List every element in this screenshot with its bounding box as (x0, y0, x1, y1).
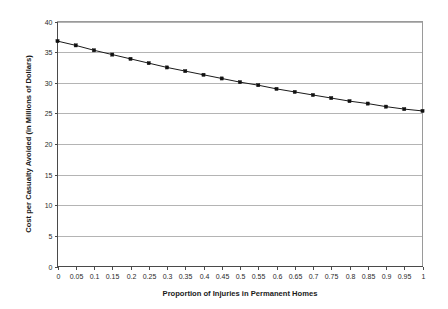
y-tick-label-20: 20 (45, 141, 53, 148)
data-point-0.05 (74, 44, 77, 47)
x-tick-label-1: 1 (422, 273, 426, 280)
data-point-0.2 (129, 57, 132, 60)
x-tick-label-0.25: 0.25 (143, 273, 157, 280)
data-point-0.1 (92, 49, 95, 52)
y-tick-label-30: 30 (45, 80, 53, 87)
y-tick-label-15: 15 (45, 172, 53, 179)
x-tick-label-0.35: 0.35 (179, 273, 193, 280)
x-tick-label-0: 0 (57, 273, 61, 280)
x-tick-label-0.85: 0.85 (362, 273, 376, 280)
series-markers (56, 40, 424, 113)
data-point-0.7 (311, 93, 314, 96)
y-tick-label-0: 0 (49, 264, 53, 271)
x-tick-label-0.3: 0.3 (163, 273, 173, 280)
chart-container: 0510152025303540 00.050.10.150.20.250.30… (0, 0, 448, 309)
data-point-0.4 (202, 73, 205, 76)
line-chart: 0510152025303540 00.050.10.150.20.250.30… (0, 0, 448, 309)
y-tick-label-10: 10 (45, 202, 53, 209)
series-line-cost-per-casualty (58, 41, 423, 111)
data-point-0.5 (238, 81, 241, 84)
data-point-0.25 (147, 62, 150, 65)
data-point-0.8 (348, 100, 351, 103)
y-axis-tick-labels: 0510152025303540 (45, 19, 53, 271)
x-tick-label-0.55: 0.55 (252, 273, 266, 280)
x-tick-label-0.7: 0.7 (309, 273, 319, 280)
x-tick-label-0.75: 0.75 (325, 273, 339, 280)
x-tick-label-0.9: 0.9 (382, 273, 392, 280)
x-tick-label-0.8: 0.8 (346, 273, 356, 280)
y-tick-label-40: 40 (45, 19, 53, 26)
y-tick-label-35: 35 (45, 49, 53, 56)
y-axis-title: Cost per Casualty Avoided (in Millions o… (24, 55, 33, 233)
data-point-0.15 (111, 53, 114, 56)
data-point-0.95 (403, 107, 406, 110)
data-point-0.45 (220, 77, 223, 80)
x-tick-label-0.2: 0.2 (127, 273, 137, 280)
x-axis-title: Proportion of Injuries in Permanent Home… (163, 289, 318, 298)
data-point-0.65 (293, 90, 296, 93)
x-tick-label-0.65: 0.65 (289, 273, 303, 280)
x-tick-label-0.5: 0.5 (236, 273, 246, 280)
data-point-0.9 (384, 105, 387, 108)
data-point-0.85 (366, 102, 369, 105)
x-tick-label-0.05: 0.05 (70, 273, 84, 280)
data-point-0 (56, 40, 59, 43)
x-tick-label-0.6: 0.6 (273, 273, 283, 280)
x-tick-label-0.4: 0.4 (200, 273, 210, 280)
y-tick-label-25: 25 (45, 110, 53, 117)
data-point-0.35 (184, 70, 187, 73)
data-point-0.6 (275, 87, 278, 90)
data-point-1 (421, 109, 424, 112)
x-axis-tick-labels: 00.050.10.150.20.250.30.350.40.450.50.55… (57, 273, 426, 280)
data-point-0.3 (165, 66, 168, 69)
x-tick-label-0.15: 0.15 (106, 273, 120, 280)
data-point-0.75 (330, 96, 333, 99)
x-tick-label-0.1: 0.1 (90, 273, 100, 280)
data-point-0.55 (257, 84, 260, 87)
x-tick-label-0.45: 0.45 (216, 273, 230, 280)
x-tick-label-0.95: 0.95 (398, 273, 412, 280)
y-tick-label-5: 5 (49, 233, 53, 240)
